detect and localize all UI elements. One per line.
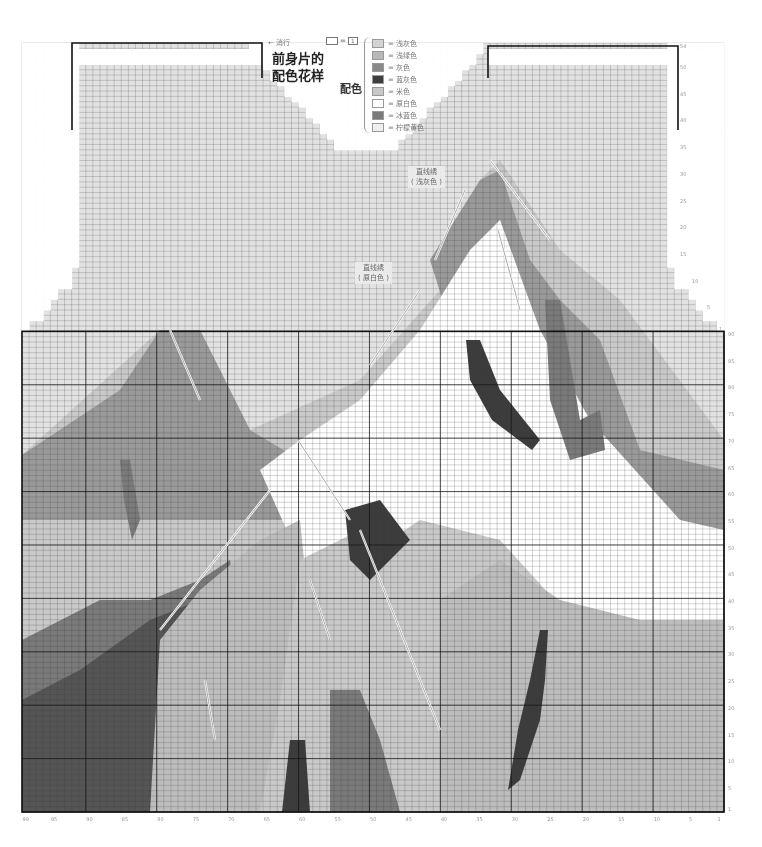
column-tick-label: 90 xyxy=(86,816,92,822)
armhole-row-tick-label: 30 xyxy=(680,171,686,177)
column-tick-label: 15 xyxy=(618,816,624,822)
blank-cell-icon xyxy=(326,37,338,45)
color-swatch-icon xyxy=(372,63,384,72)
armhole-row-tick-label: 1 xyxy=(719,326,722,332)
row-tick-label: 1 xyxy=(728,806,731,812)
armhole-row-tick-label: 10 xyxy=(692,278,698,284)
row-tick-label: 55 xyxy=(728,518,734,524)
legend-item: = 浅灰色 xyxy=(372,37,424,49)
bind-off-label: ← 消行 xyxy=(268,37,290,47)
legend-item: = 蓝灰色 xyxy=(372,73,424,85)
chart-title-line1: 前身片的 xyxy=(272,50,324,67)
color-swatch-icon xyxy=(372,51,384,60)
armhole-row-tick-label: 20 xyxy=(680,224,686,230)
legend-item: = 柠檬黄色 xyxy=(372,121,424,133)
row-tick-label: 80 xyxy=(728,384,734,390)
column-tick-label: 20 xyxy=(583,816,589,822)
armhole-row-tick-label: 15 xyxy=(680,251,686,257)
color-legend: = 浅灰色 = 浅绿色 = 灰色 = 蓝灰色 = 米色 = 原白色 = 冰蓝色 … xyxy=(372,37,424,133)
color-swatch-icon xyxy=(372,39,384,48)
column-tick-label: 5 xyxy=(689,816,692,822)
column-tick-label: 55 xyxy=(335,816,341,822)
callout-straight-stitch-light-gray: 直线绣 ( 浅灰色 ) xyxy=(408,166,445,188)
legend-item: = 冰蓝色 xyxy=(372,109,424,121)
column-tick-label: 35 xyxy=(476,816,482,822)
row-tick-label: 65 xyxy=(728,465,734,471)
knit-symbol-icon: 1 xyxy=(348,37,358,45)
row-tick-label: 5 xyxy=(728,785,731,791)
legend-item: = 原白色 xyxy=(372,97,424,109)
armhole-row-tick-label: 45 xyxy=(680,91,686,97)
key-equals: = xyxy=(340,37,346,45)
color-swatch-icon xyxy=(372,99,384,108)
column-tick-label: 95 xyxy=(51,816,57,822)
legend-title: 配色 xyxy=(340,80,362,96)
row-tick-label: 40 xyxy=(728,598,734,604)
column-tick-label: 10 xyxy=(654,816,660,822)
row-tick-label: 60 xyxy=(728,491,734,497)
row-tick-label: 85 xyxy=(728,358,734,364)
column-tick-label: 65 xyxy=(264,816,270,822)
row-tick-label: 25 xyxy=(728,678,734,684)
armhole-row-tick-label: 54 xyxy=(680,43,686,49)
column-tick-label: 40 xyxy=(441,816,447,822)
legend-brace xyxy=(364,37,371,133)
symbol-key: = 1 xyxy=(326,37,358,45)
legend-item: = 米色 xyxy=(372,85,424,97)
row-tick-label: 50 xyxy=(728,545,734,551)
row-tick-label: 45 xyxy=(728,571,734,577)
color-swatch-icon xyxy=(372,87,384,96)
row-tick-label: 20 xyxy=(728,705,734,711)
row-tick-label: 70 xyxy=(728,438,734,444)
column-tick-label: 25 xyxy=(547,816,553,822)
color-swatch-icon xyxy=(372,75,384,84)
chart-title-line2: 配色花样 xyxy=(272,67,324,84)
armhole-row-tick-label: 5 xyxy=(707,304,710,310)
color-swatch-icon xyxy=(372,123,384,132)
armhole-row-tick-label: 25 xyxy=(680,198,686,204)
column-tick-label: 60 xyxy=(299,816,305,822)
column-tick-label: 70 xyxy=(228,816,234,822)
column-tick-label: 1 xyxy=(717,816,720,822)
chart-title: 前身片的 配色花样 xyxy=(272,50,324,84)
column-tick-label: 85 xyxy=(122,816,128,822)
row-tick-label: 75 xyxy=(728,411,734,417)
row-tick-label: 30 xyxy=(728,651,734,657)
column-tick-label: 80 xyxy=(157,816,163,822)
column-tick-label: 45 xyxy=(405,816,411,822)
armhole-row-tick-label: 35 xyxy=(680,144,686,150)
armhole-row-tick-label: 50 xyxy=(680,64,686,70)
row-tick-label: 90 xyxy=(728,331,734,337)
column-tick-label: 50 xyxy=(370,816,376,822)
column-tick-label: 99 xyxy=(23,816,29,822)
row-tick-label: 35 xyxy=(728,625,734,631)
row-tick-label: 10 xyxy=(728,758,734,764)
legend-item: = 灰色 xyxy=(372,61,424,73)
legend-item: = 浅绿色 xyxy=(372,49,424,61)
row-tick-label: 15 xyxy=(728,732,734,738)
column-tick-label: 75 xyxy=(193,816,199,822)
armhole-row-tick-label: 40 xyxy=(680,117,686,123)
color-swatch-icon xyxy=(372,111,384,120)
callout-straight-stitch-white: 直线绣 ( 原白色 ) xyxy=(355,262,392,284)
column-tick-label: 30 xyxy=(512,816,518,822)
